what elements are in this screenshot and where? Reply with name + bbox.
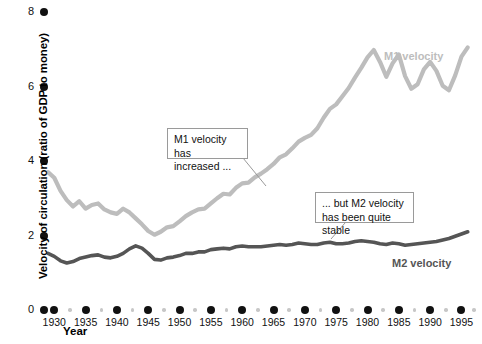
x-tick-dot	[270, 306, 278, 314]
x-tick-dot	[82, 306, 90, 314]
m2-annotation: ... but M2 velocity has been quite stabl…	[315, 192, 414, 223]
x-minor-tick-dot	[413, 308, 417, 312]
x-tick-dot	[113, 306, 121, 314]
y-tick-dot	[40, 8, 48, 16]
x-minor-tick-dot	[472, 308, 476, 312]
x-tick-dot	[207, 306, 215, 314]
x-minor-tick-dot	[225, 308, 229, 312]
chart-figure: 0246819301935194019451950195519601965197…	[0, 0, 482, 344]
series-label-m1: M1 velocity	[384, 50, 443, 62]
x-tick-dot	[395, 306, 403, 314]
x-minor-tick-dot	[100, 308, 104, 312]
x-minor-tick-dot	[68, 308, 72, 312]
x-minor-tick-dot	[319, 308, 323, 312]
m1-annotation: M1 velocity has increased ...	[167, 128, 248, 159]
x-tick-dot	[176, 306, 184, 314]
x-minor-tick-dot	[193, 308, 197, 312]
y-tick-label: 4	[18, 154, 34, 166]
x-minor-tick-dot	[444, 308, 448, 312]
x-minor-tick-dot	[381, 308, 385, 312]
series-label-m2: M2 velocity	[392, 257, 451, 269]
x-minor-tick-dot	[256, 308, 260, 312]
x-tick-dot	[301, 306, 309, 314]
y-tick-label: 2	[18, 229, 34, 241]
x-tick-dot	[364, 306, 372, 314]
x-minor-tick-dot	[287, 308, 291, 312]
y-tick-label: 0	[18, 303, 34, 315]
x-minor-tick-dot	[350, 308, 354, 312]
y-tick-dot	[40, 306, 48, 314]
x-tick-label: 1995	[441, 316, 481, 328]
y-tick-label: 6	[18, 80, 34, 92]
y-tick-label: 8	[18, 5, 34, 17]
x-axis-label: Year	[63, 325, 87, 337]
y-axis-label: Velocity of circulation (ratio of GDP to…	[37, 31, 49, 281]
x-minor-tick-dot	[162, 308, 166, 312]
x-minor-tick-dot	[131, 308, 135, 312]
